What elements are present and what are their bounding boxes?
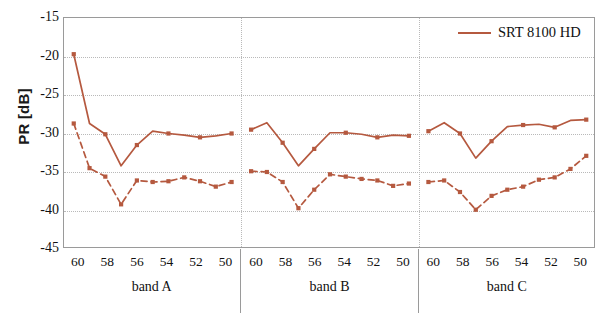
x-axis-tick-label: 50: [211, 254, 241, 270]
series-marker: [344, 131, 348, 135]
series-marker: [553, 175, 557, 179]
series-marker: [391, 184, 395, 188]
y-axis-tick-label: -35: [13, 164, 59, 178]
series-marker: [229, 131, 233, 135]
series-marker: [229, 180, 233, 184]
plot-area: [63, 17, 595, 248]
data-series-layer: [64, 18, 596, 249]
series-marker: [166, 131, 170, 135]
x-axis-band: 605856545250band A: [63, 249, 240, 313]
x-axis-tick-label: 56: [122, 254, 152, 270]
x-axis-tick-label: 60: [241, 254, 270, 270]
x-axis-tick-label: 52: [359, 254, 388, 270]
series-marker: [553, 125, 557, 129]
series-marker: [265, 170, 269, 174]
series-marker: [87, 166, 91, 170]
series-marker: [505, 188, 509, 192]
series-line: [251, 123, 409, 166]
x-axis-tick-label: 52: [181, 254, 211, 270]
x-axis-band-label: band C: [419, 279, 595, 295]
series-marker: [182, 175, 186, 179]
x-axis-tick-label: 54: [152, 254, 182, 270]
series-marker: [442, 178, 446, 182]
x-axis-band-label: band B: [241, 279, 417, 295]
series-marker: [489, 194, 493, 198]
series-marker: [521, 185, 525, 189]
series-marker: [103, 175, 107, 179]
series-marker: [359, 177, 363, 181]
x-axis-tick-row: 605856545250: [63, 254, 240, 270]
series-marker: [72, 121, 76, 125]
series-marker: [489, 139, 493, 143]
series-line: [251, 171, 409, 208]
series-marker: [521, 123, 525, 127]
series-marker: [281, 141, 285, 145]
y-axis-tick-label: -30: [13, 126, 59, 140]
x-axis-tick-label: 54: [507, 254, 536, 270]
series-marker: [119, 202, 123, 206]
x-axis-tick-row: 605856545250: [419, 254, 595, 270]
series-marker: [426, 129, 430, 133]
series-line: [74, 54, 232, 166]
series-marker: [249, 169, 253, 173]
series-marker: [584, 154, 588, 158]
series-marker: [198, 179, 202, 183]
y-axis-tick-labels: -15-20-25-30-35-40-45: [0, 0, 59, 313]
x-axis: 605856545250band A605856545250band B6058…: [63, 249, 595, 313]
series-marker: [198, 135, 202, 139]
series-marker: [407, 134, 411, 138]
x-axis-tick-label: 58: [93, 254, 123, 270]
legend-line-swatch: [458, 32, 491, 34]
series-marker: [103, 132, 107, 136]
series-marker: [537, 178, 541, 182]
x-axis-tick-label: 56: [477, 254, 506, 270]
x-axis-tick-label: 58: [448, 254, 477, 270]
series-line: [428, 120, 586, 159]
series-marker: [151, 180, 155, 184]
y-axis-tick-label: -40: [13, 203, 59, 217]
x-axis-tick-label: 60: [419, 254, 448, 270]
y-axis-tick-label: -15: [13, 10, 59, 24]
series-marker: [584, 118, 588, 122]
y-axis-tick-label: -25: [13, 87, 59, 101]
x-axis-band: 605856545250band C: [418, 249, 595, 313]
x-axis-tick-label: 56: [300, 254, 329, 270]
series-marker: [458, 131, 462, 135]
series-marker: [344, 175, 348, 179]
series-marker: [312, 188, 316, 192]
series-marker: [328, 172, 332, 176]
x-axis-tick-label: 60: [63, 254, 93, 270]
series-marker: [166, 179, 170, 183]
x-axis-tick-label: 58: [271, 254, 300, 270]
series-marker: [474, 208, 478, 212]
y-axis-tick-label: -20: [13, 49, 59, 63]
series-marker: [426, 180, 430, 184]
series-marker: [458, 190, 462, 194]
x-axis-band: 605856545250band B: [240, 249, 417, 313]
y-axis-tick-label: -45: [13, 241, 59, 255]
x-axis-band-label: band A: [63, 279, 240, 295]
series-marker: [407, 181, 411, 185]
series-marker: [72, 52, 76, 56]
series-marker: [281, 180, 285, 184]
series-line: [74, 123, 232, 204]
series-marker: [312, 147, 316, 151]
x-axis-tick-row: 605856545250: [241, 254, 417, 270]
series-marker: [135, 143, 139, 147]
legend-entry-label: SRT 8100 HD: [498, 24, 581, 41]
series-marker: [214, 185, 218, 189]
chart-container: PR [dB] -15-20-25-30-35-40-45 SRT 8100 H…: [0, 0, 608, 313]
series-marker: [135, 178, 139, 182]
series-marker: [249, 128, 253, 132]
series-line: [428, 156, 586, 210]
series-marker: [375, 178, 379, 182]
series-marker: [568, 167, 572, 171]
x-axis-tick-label: 54: [330, 254, 359, 270]
series-marker: [296, 206, 300, 210]
series-marker: [375, 135, 379, 139]
x-axis-tick-label: 50: [388, 254, 417, 270]
x-axis-tick-label: 52: [536, 254, 565, 270]
legend: SRT 8100 HD: [455, 23, 584, 42]
x-axis-tick-label: 50: [566, 254, 595, 270]
